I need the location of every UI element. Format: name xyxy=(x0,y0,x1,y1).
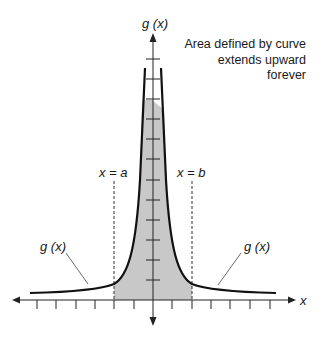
curve-g-right xyxy=(161,68,276,293)
annotation-line-2: extends upward xyxy=(184,53,306,69)
x-axis-label: x xyxy=(300,294,307,307)
boundary-label-b: x = b xyxy=(177,166,206,179)
annotation-line-3: forever xyxy=(184,68,306,84)
y-axis-down-arrow-icon xyxy=(150,317,157,326)
y-axis-up-arrow-icon xyxy=(150,33,157,42)
boundary-label-a: x = a xyxy=(99,166,128,179)
x-axis-left-arrow-icon xyxy=(12,297,20,304)
curve-label-right: g (x) xyxy=(244,240,270,253)
curve-label-left: g (x) xyxy=(40,240,66,253)
annotation-text: Area defined by curve extends upward for… xyxy=(184,37,306,84)
curve-label-left-leader xyxy=(66,253,88,284)
annotation-line-1: Area defined by curve xyxy=(184,37,306,53)
curve-label-right-leader xyxy=(218,253,241,285)
x-axis-right-arrow-icon xyxy=(288,297,296,304)
y-axis-label: g (x) xyxy=(142,17,168,30)
curve-g-left xyxy=(30,68,145,293)
